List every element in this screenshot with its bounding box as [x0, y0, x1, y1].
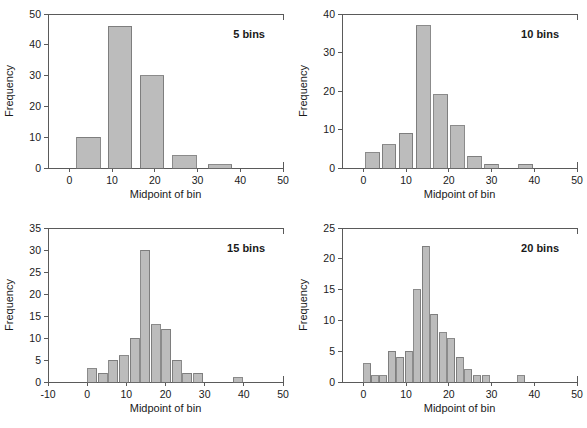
x-tick-label: 0 [84, 388, 90, 400]
x-tick-label: 20 [442, 174, 454, 186]
x-tick-label: 10 [400, 388, 412, 400]
panel-10-bins: 01020304001020304050Midpoint of binFrequ… [294, 0, 587, 214]
y-tick-label: 30 [29, 69, 41, 81]
chart-canvas: 051015202501020304050Midpoint of binFreq… [294, 214, 587, 428]
x-tick-label: 30 [485, 174, 497, 186]
x-tick-label: 40 [528, 388, 540, 400]
y-tick-label: 15 [29, 310, 41, 322]
y-tick-label: 35 [29, 222, 41, 234]
histogram-bar [473, 376, 480, 382]
chart-canvas: 05101520253035-1001020304050Midpoint of … [0, 214, 293, 428]
x-tick-label: 0 [360, 388, 366, 400]
histogram-bar [416, 26, 430, 168]
x-tick-label: 0 [66, 174, 72, 186]
histogram-bar [450, 126, 464, 168]
x-tick-label: 30 [199, 388, 211, 400]
x-axis-title: Midpoint of bin [130, 402, 202, 414]
y-tick-label: 25 [323, 222, 335, 234]
histogram-bar [382, 145, 396, 168]
histogram-bar [413, 290, 420, 382]
y-tick-label: 40 [323, 8, 335, 20]
x-tick-label: 10 [106, 174, 118, 186]
histogram-bar [447, 339, 454, 382]
histogram-bar [464, 370, 471, 382]
histogram-bar [456, 357, 463, 382]
y-tick-label: 0 [35, 162, 41, 174]
x-axis-title: Midpoint of bin [130, 188, 202, 200]
histogram-bar [396, 357, 403, 382]
histogram-bar [173, 156, 197, 168]
x-tick-label: 20 [149, 174, 161, 186]
x-tick-label: 40 [528, 174, 540, 186]
x-axis-title: Midpoint of bin [423, 402, 495, 414]
y-tick-label: 5 [35, 354, 41, 366]
histogram-bar [422, 246, 429, 382]
y-tick-label: 20 [323, 252, 335, 264]
y-axis-title: Frequency [3, 65, 15, 117]
histogram-bar [379, 376, 386, 382]
histogram-bar [371, 376, 378, 382]
histogram-bar [518, 164, 532, 168]
y-tick-label: 20 [29, 288, 41, 300]
y-tick-label: 0 [35, 376, 41, 388]
histogram-bar [130, 338, 139, 382]
x-tick-label: 30 [485, 388, 497, 400]
histogram-bar [108, 26, 132, 168]
histogram-bin-comparison-figure: 0102030405001020304050Midpoint of binFre… [0, 0, 587, 428]
histogram-bar [88, 369, 97, 382]
histogram-bar [405, 351, 412, 382]
y-tick-label: 10 [29, 332, 41, 344]
chart-canvas: 0102030405001020304050Midpoint of binFre… [0, 0, 293, 214]
histogram-bar [183, 373, 192, 382]
panel-title-label: 5 bins [233, 28, 265, 40]
x-tick-label: 50 [571, 174, 583, 186]
panel-20-bins: 051015202501020304050Midpoint of binFreq… [294, 214, 587, 428]
y-tick-label: 40 [29, 38, 41, 50]
y-tick-label: 5 [329, 345, 335, 357]
y-tick-label: 30 [323, 46, 335, 58]
histogram-bar [399, 133, 413, 168]
y-tick-label: 0 [329, 376, 335, 388]
y-tick-label: 0 [329, 162, 335, 174]
histogram-bar [140, 76, 164, 168]
x-tick-label: 0 [360, 174, 366, 186]
histogram-bar [467, 156, 481, 168]
y-tick-label: 50 [29, 8, 41, 20]
histogram-bar [482, 376, 489, 382]
y-tick-label: 10 [323, 314, 335, 326]
x-tick-label: 20 [442, 388, 454, 400]
histogram-bar [484, 164, 498, 168]
x-tick-label: 30 [192, 174, 204, 186]
y-tick-label: 30 [29, 244, 41, 256]
histogram-bar [363, 364, 370, 382]
histogram-bar [208, 165, 232, 168]
y-tick-label: 10 [29, 131, 41, 143]
panel-15-bins: 05101520253035-1001020304050Midpoint of … [0, 214, 293, 428]
y-axis-title: Frequency [3, 279, 15, 331]
y-tick-label: 10 [323, 123, 335, 135]
x-tick-label: 50 [277, 174, 289, 186]
x-tick-label: 20 [160, 388, 172, 400]
y-axis-title: Frequency [297, 65, 309, 117]
histogram-bar [77, 137, 101, 168]
x-tick-label: -10 [40, 388, 55, 400]
panel-title-label: 20 bins [521, 242, 559, 254]
x-tick-label: 10 [400, 174, 412, 186]
chart-canvas: 01020304001020304050Midpoint of binFrequ… [294, 0, 587, 214]
histogram-bar [433, 95, 447, 168]
histogram-bar [365, 153, 379, 168]
histogram-bar [233, 378, 242, 382]
histogram-bar [388, 351, 395, 382]
histogram-bar [151, 325, 160, 382]
histogram-bar [98, 373, 107, 382]
x-tick-label: 50 [277, 388, 289, 400]
x-tick-label: 40 [238, 388, 250, 400]
x-tick-label: 10 [120, 388, 132, 400]
histogram-bar [517, 376, 524, 382]
histogram-bar [109, 360, 118, 382]
y-tick-label: 25 [29, 266, 41, 278]
x-axis-title: Midpoint of bin [423, 188, 495, 200]
y-axis-title: Frequency [297, 279, 309, 331]
histogram-bar [194, 373, 203, 382]
x-tick-label: 40 [234, 174, 246, 186]
